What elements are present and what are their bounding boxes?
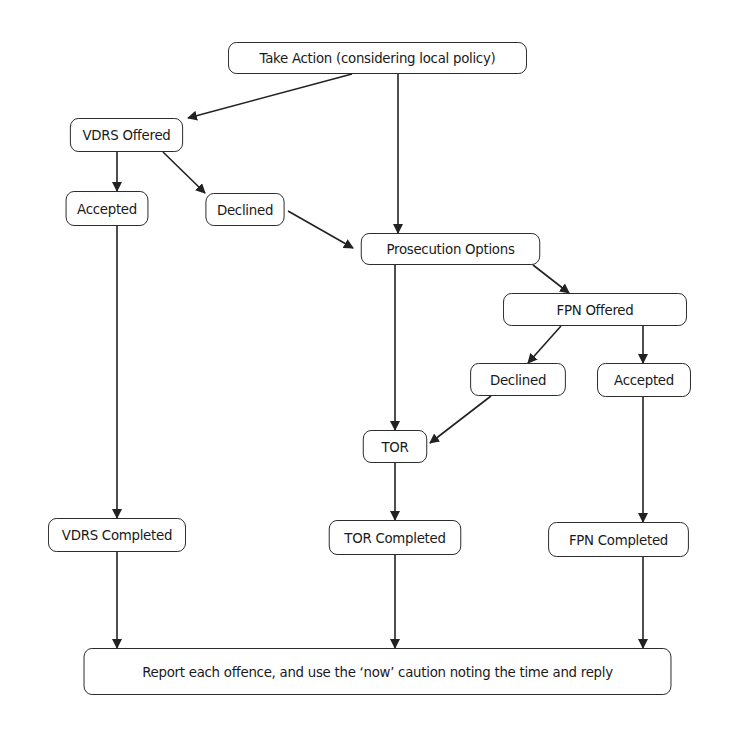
node-label: Prosecution Options	[386, 241, 514, 257]
node-fpn-offered: FPN Offered	[503, 293, 687, 326]
node-fpn-completed: FPN Completed	[548, 522, 689, 557]
node-label: TOR Completed	[344, 530, 445, 546]
node-label: Declined	[217, 202, 273, 218]
edge-arrow-prosecution_options-to-fpn_offered	[533, 265, 569, 293]
edge-arrow-fpn_offered-to-fpn_declined	[528, 326, 561, 363]
edge-arrow-fpn_declined-to-tor	[430, 396, 491, 443]
node-tor: TOR	[363, 430, 427, 463]
node-report: Report each offence, and use the ‘now’ c…	[84, 648, 672, 695]
node-label: Report each offence, and use the ‘now’ c…	[142, 664, 613, 680]
edge-arrow-take_action-to-vdrs_offered	[188, 74, 352, 118]
node-label: VDRS Completed	[62, 527, 172, 543]
node-vdrs-offered: VDRS Offered	[70, 118, 183, 152]
node-label: FPN Completed	[569, 532, 668, 548]
node-vdrs-completed: VDRS Completed	[48, 518, 186, 552]
node-label: Declined	[490, 372, 546, 388]
node-label: FPN Offered	[557, 302, 634, 318]
node-tor-completed: TOR Completed	[329, 520, 461, 555]
node-fpn-accepted: Accepted	[597, 363, 691, 397]
flowchart-canvas: Take Action (considering local policy) V…	[0, 0, 735, 732]
node-label: VDRS Offered	[82, 127, 170, 143]
node-label: Accepted	[614, 372, 674, 388]
edge-arrow-vdrs_offered-to-vdrs_declined	[163, 152, 205, 193]
node-label: Take Action (considering local policy)	[259, 50, 495, 66]
node-fpn-declined: Declined	[470, 363, 566, 396]
node-take-action: Take Action (considering local policy)	[228, 42, 527, 74]
node-prosecution-options: Prosecution Options	[361, 233, 540, 265]
edge-arrow-vdrs_declined-to-prosecution_options	[288, 211, 353, 248]
node-label: Accepted	[77, 201, 137, 217]
node-vdrs-declined: Declined	[205, 193, 284, 226]
node-label: TOR	[381, 439, 408, 455]
node-vdrs-accepted: Accepted	[66, 191, 149, 226]
